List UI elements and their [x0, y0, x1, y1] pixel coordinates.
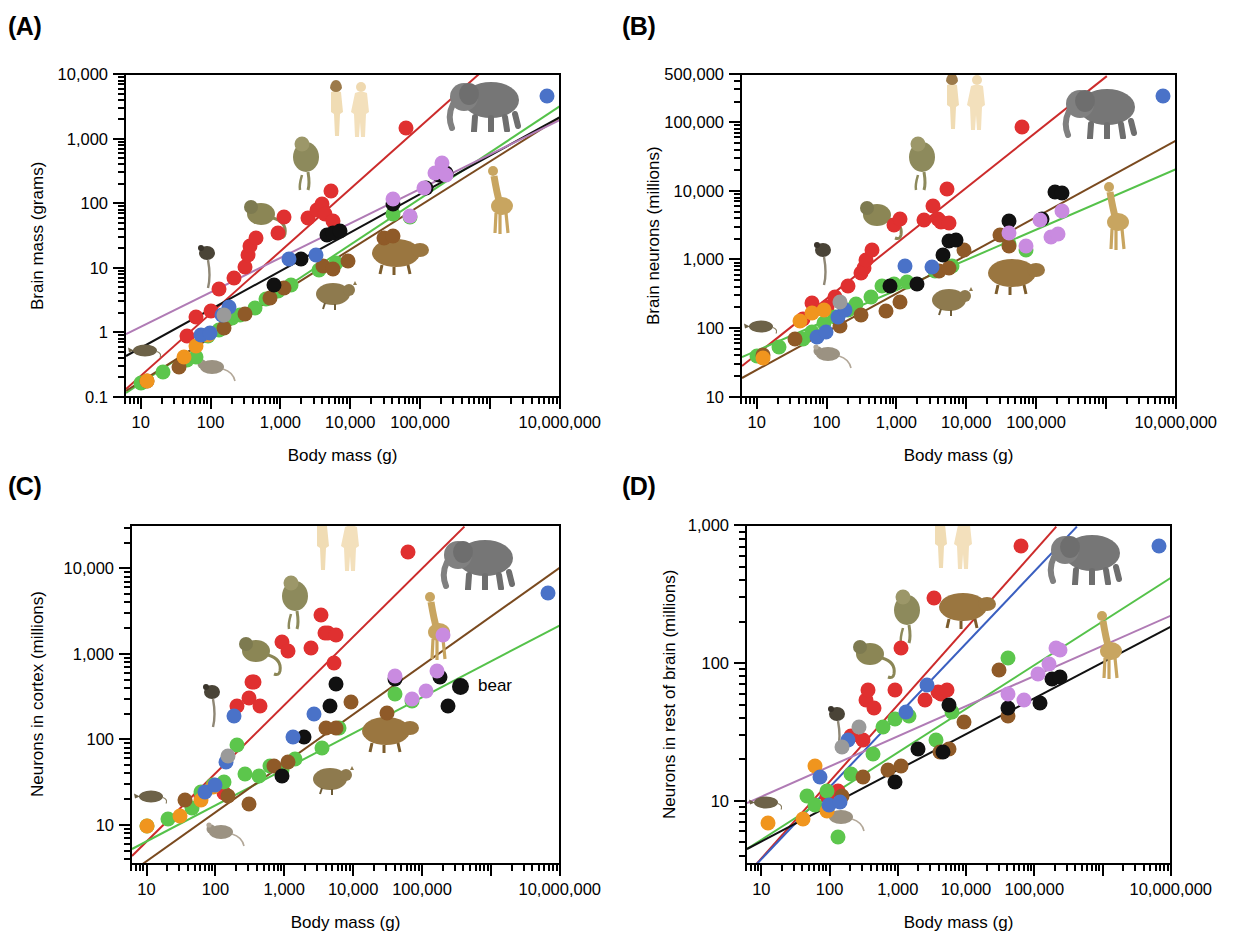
- data-point-marsupials: [833, 794, 848, 809]
- x-tick-minor: [1074, 865, 1076, 871]
- x-tick-minor: [1081, 865, 1083, 871]
- data-point-artiodactyls: [1033, 695, 1048, 710]
- x-tick-minor: [1159, 865, 1161, 871]
- x-tick-minor: [1023, 865, 1025, 871]
- x-tick-minor: [950, 865, 952, 871]
- panel-label: (D): [622, 472, 655, 501]
- x-tick-minor: [793, 865, 795, 871]
- animal-macaque: [887, 588, 931, 646]
- y-tick-minor: [739, 675, 745, 677]
- y-tick-major: [734, 662, 745, 664]
- data-point-primates: [855, 733, 870, 748]
- plot-area: [745, 524, 1172, 865]
- x-tick-minor: [890, 865, 892, 871]
- data-point-afrotherians: [1052, 643, 1067, 658]
- x-tick-minor: [757, 865, 759, 871]
- x-tick-major: [897, 865, 899, 876]
- animal-capuchin: [848, 636, 902, 680]
- x-tick-minor: [813, 865, 815, 871]
- data-point-glires: [865, 747, 880, 762]
- data-point-glires: [831, 830, 846, 845]
- x-tick-minor: [894, 865, 896, 871]
- x-tick-minor: [962, 865, 964, 871]
- data-point-marsupials: [899, 704, 914, 719]
- y-tick-minor: [739, 546, 745, 548]
- x-tick-minor: [1091, 865, 1093, 871]
- y-tick-minor: [739, 855, 745, 857]
- y-tick-minor: [739, 531, 745, 533]
- data-point-afrotherians: [1041, 656, 1056, 671]
- data-point-carnivora: [851, 719, 866, 734]
- x-tick-minor: [1149, 865, 1151, 871]
- x-tick-minor: [954, 865, 956, 871]
- x-tick-major: [760, 865, 762, 876]
- x-tick-minor: [876, 865, 878, 871]
- y-tick-minor: [739, 596, 745, 598]
- data-point-eulipotyphlans: [956, 714, 971, 729]
- x-tick-minor: [958, 865, 960, 871]
- data-point-primates: [866, 700, 881, 715]
- data-point-marsupials: [812, 770, 827, 785]
- x-tick-minor: [849, 865, 851, 871]
- data-point-artiodactyls: [1052, 670, 1067, 685]
- data-point-primates: [1013, 538, 1028, 553]
- x-tick-label: 10: [752, 880, 770, 899]
- data-point-primates: [917, 692, 932, 707]
- x-tick-minor: [801, 865, 803, 871]
- x-tick-major: [1033, 865, 1035, 876]
- data-point-scandentia: [796, 811, 811, 826]
- y-tick-minor: [739, 806, 745, 808]
- x-tick-minor: [1095, 865, 1097, 871]
- x-tick-minor: [808, 865, 810, 871]
- x-tick-minor: [886, 865, 888, 871]
- x-tick-minor: [1122, 865, 1124, 871]
- x-tick-minor: [998, 865, 1000, 871]
- x-axis-label: Body mass (g): [745, 913, 1172, 933]
- x-tick-label: 100: [816, 880, 844, 899]
- data-point-eulipotyphlans: [992, 663, 1007, 678]
- x-tick-minor: [781, 865, 783, 871]
- x-tick-minor: [745, 865, 747, 871]
- y-tick-minor: [739, 683, 745, 685]
- x-tick-minor: [1030, 865, 1032, 871]
- x-tick-minor: [1027, 865, 1029, 871]
- x-tick-major: [829, 865, 831, 876]
- y-tick-major: [734, 524, 745, 526]
- data-point-artiodactyls: [942, 698, 957, 713]
- data-point-primates: [861, 682, 876, 697]
- data-point-eulipotyphlans: [855, 770, 870, 785]
- animal-human-female: [929, 524, 951, 570]
- animal-elephant: [1046, 529, 1130, 585]
- x-tick-label: 100,000: [1004, 880, 1064, 899]
- y-tick-minor: [739, 821, 745, 823]
- data-point-eulipotyphlans: [894, 759, 909, 774]
- animal-human-male: [953, 524, 975, 570]
- x-tick-label: 10,000,000: [1129, 880, 1212, 899]
- data-point-primates: [894, 641, 909, 656]
- x-tick-minor: [1098, 865, 1100, 871]
- x-tick-minor: [1054, 865, 1056, 871]
- x-tick-minor: [750, 865, 752, 871]
- x-tick-minor: [754, 865, 756, 871]
- data-point-primates: [926, 591, 941, 606]
- x-tick-minor: [822, 865, 824, 871]
- x-tick-minor: [1013, 865, 1015, 871]
- x-tick-minor: [938, 865, 940, 871]
- data-point-glires: [820, 783, 835, 798]
- x-tick-minor: [1086, 865, 1088, 871]
- y-tick-minor: [739, 621, 745, 623]
- x-tick-minor: [882, 865, 884, 871]
- y-tick-minor: [739, 668, 745, 670]
- x-tick-minor: [861, 865, 863, 871]
- data-point-marsupials: [919, 678, 934, 693]
- y-tick-minor: [739, 704, 745, 706]
- x-tick-minor: [870, 865, 872, 871]
- y-tick-minor: [739, 841, 745, 843]
- figure-root: (A)0.11101001,00010,000101001,00010,0001…: [0, 0, 1235, 942]
- y-tick-minor: [739, 555, 745, 557]
- x-tick-minor: [825, 865, 827, 871]
- x-tick-minor: [1018, 865, 1020, 871]
- y-tick-minor: [739, 693, 745, 695]
- x-tick-minor: [945, 865, 947, 871]
- data-point-marsupials: [1151, 538, 1166, 553]
